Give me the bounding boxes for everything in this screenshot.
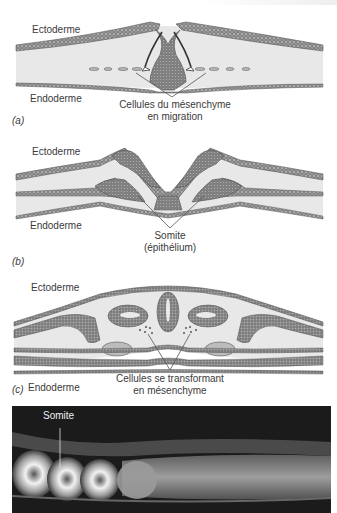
label-endoderm-b: Endoderme <box>30 220 82 231</box>
label-endoderm-a: Endoderme <box>30 93 82 104</box>
panel-c: Ectoderme Endoderme Cellules se transfor… <box>0 270 337 400</box>
label-ectoderm-b: Ectoderme <box>32 146 80 157</box>
label-somite-micrograph: Somite <box>43 410 74 421</box>
label-ectoderm-a: Ectoderme <box>32 24 80 35</box>
caption-a-line1: Cellules du mésenchyme <box>100 99 250 111</box>
panel-tag-c: (c) <box>12 384 24 395</box>
panel-a: Ectoderme Endoderme Cellules du mésenchy… <box>0 0 337 130</box>
caption-c-line1: Cellules se transformant <box>100 373 240 385</box>
caption-c-line2: en mésenchyme <box>100 385 240 397</box>
panel-tag-b: (b) <box>12 256 24 267</box>
panel-tag-a: (a) <box>12 115 24 126</box>
caption-b-line2: (épithélium) <box>110 242 230 254</box>
label-ectoderm-c: Ectoderme <box>31 282 79 293</box>
caption-a-line2: en migration <box>100 111 250 123</box>
micrograph-image <box>12 406 331 513</box>
caption-b-line1: Somite <box>110 230 230 242</box>
label-endoderm-c: Endoderme <box>28 382 80 393</box>
panel-b: Ectoderme Endoderme Somite (épithélium) <box>0 130 337 260</box>
somite-micrograph: Somite <box>12 406 331 513</box>
